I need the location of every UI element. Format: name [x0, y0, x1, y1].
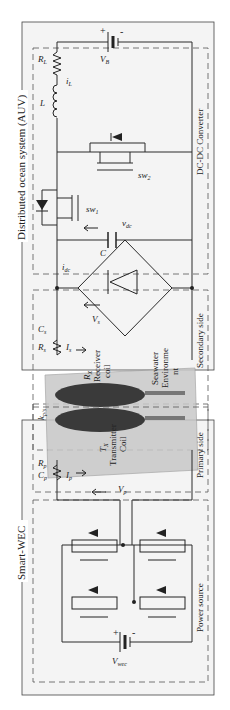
junction-dot	[190, 286, 194, 290]
wec-system-title: Smart-WEC	[15, 526, 27, 580]
auv-system-panel	[22, 22, 214, 370]
junction-dot	[121, 543, 125, 547]
inductor-label: L	[39, 98, 45, 108]
vwec-minus: -	[132, 627, 135, 638]
power-source-label: Power source	[195, 583, 205, 632]
receiver-coil-label: coil	[102, 364, 112, 378]
auv-system-title: Distributed ocean system (AUV)	[15, 95, 28, 240]
receiver-label: Receiver	[92, 350, 102, 382]
junction-dot	[55, 286, 59, 290]
environment-label: Environme	[160, 348, 170, 388]
vb-plus: +	[100, 25, 106, 36]
dcdc-label: DC-DC Converter	[195, 109, 205, 175]
environment-suffix-label: nt	[170, 368, 180, 376]
junction-dot	[132, 600, 136, 604]
cap-c-label: C	[100, 248, 107, 258]
kps-label: kp/s	[36, 408, 47, 420]
transmitter-label: Transmitter	[108, 424, 118, 466]
secondary-label: Secondary side	[195, 313, 205, 368]
vwec-plus: +	[113, 627, 119, 638]
transmitter-coil-label: Coil	[118, 436, 128, 452]
circuit-diagram: Distributed ocean system (AUV) Smart-WEC…	[0, 0, 230, 710]
receiver-coil	[55, 383, 145, 407]
seawater-label: Seawater	[150, 352, 160, 385]
vb-minus: -	[120, 26, 123, 37]
transmitter-coil	[55, 408, 145, 432]
